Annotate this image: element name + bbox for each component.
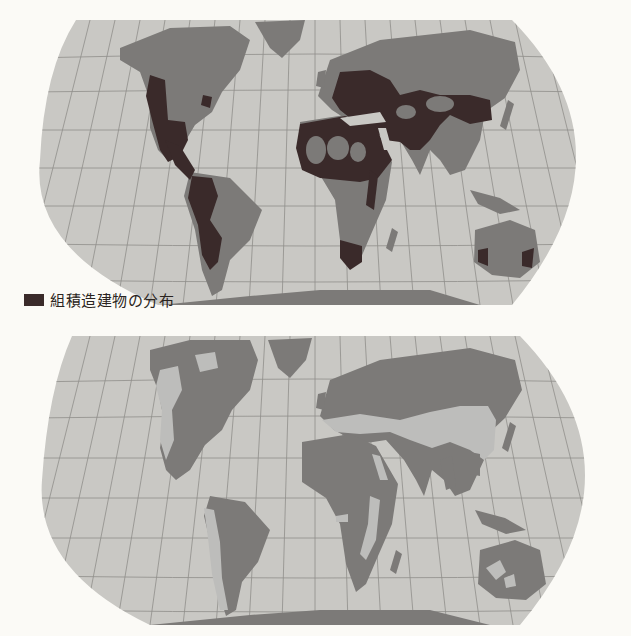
earthquake-world-map xyxy=(0,310,631,636)
masonry-world-map xyxy=(0,0,631,310)
masonry-legend: 組積造建物の分布 xyxy=(24,289,174,310)
masonry-map-panel: 組積造建物の分布 xyxy=(0,0,631,310)
masonry-legend-label: 組積造建物の分布 xyxy=(50,289,174,310)
masonry-legend-swatch xyxy=(24,294,44,306)
earthquake-map-panel: 地震多発地域の分布 xyxy=(0,310,631,636)
